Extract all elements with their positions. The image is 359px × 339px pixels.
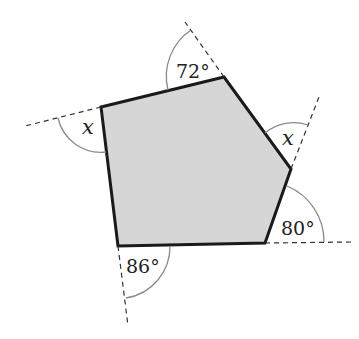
extension-line-c — [291, 97, 319, 169]
angle-label-e: 86° — [126, 255, 160, 277]
angle-label-a: x — [82, 115, 94, 139]
angle-label-d: 80° — [281, 217, 315, 239]
pentagon-shape — [101, 77, 291, 246]
diagram-canvas: 72° x x 80° 86° — [0, 0, 359, 339]
angle-label-c: x — [282, 126, 294, 150]
extension-line-d — [265, 242, 352, 243]
angle-label-b: 72° — [176, 60, 210, 82]
